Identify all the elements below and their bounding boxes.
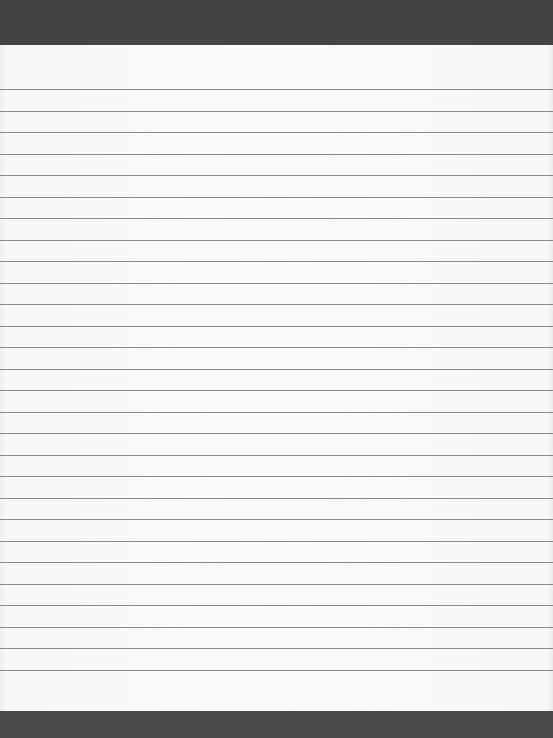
ruled-line [0,154,553,155]
ruled-line [0,433,553,434]
ruled-line [0,218,553,219]
ruled-paper [0,45,553,711]
ruled-line [0,562,553,563]
ruled-line [0,498,553,499]
ruled-line [0,283,553,284]
bottom-dark-band [0,711,553,738]
ruled-line [0,584,553,585]
ruled-line [0,197,553,198]
ruled-line [0,240,553,241]
ruled-line [0,648,553,649]
ruled-line [0,261,553,262]
ruled-line [0,175,553,176]
top-dark-band [0,0,553,45]
ruled-line [0,670,553,671]
ruled-line [0,369,553,370]
ruled-line [0,519,553,520]
ruled-line [0,89,553,90]
ruled-line [0,541,553,542]
ruled-line [0,627,553,628]
ruled-line [0,347,553,348]
ruled-line [0,326,553,327]
ruled-line [0,304,553,305]
ruled-line [0,412,553,413]
ruled-line [0,132,553,133]
ruled-line [0,476,553,477]
ruled-line [0,455,553,456]
ruled-line [0,605,553,606]
ruled-line [0,111,553,112]
ruled-line [0,390,553,391]
